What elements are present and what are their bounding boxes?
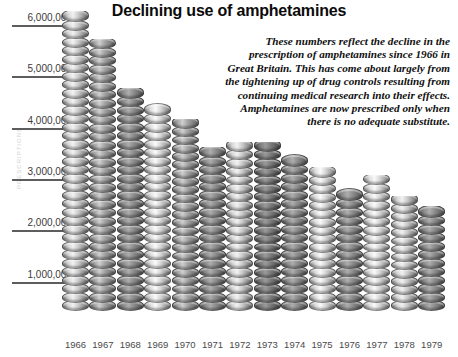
plot-area: PRESCRIPTIONS 6,000,0005,000,0004,000,00… [0, 0, 458, 357]
bar[interactable] [336, 188, 363, 311]
bar-series [0, 0, 458, 334]
bar[interactable] [144, 103, 171, 311]
coin-disc [281, 154, 308, 166]
chart-figure: Declining use of amphetamines These numb… [0, 0, 458, 357]
bar[interactable] [62, 11, 89, 311]
x-axis-tick-label: 1979 [415, 339, 449, 350]
coin-disc [172, 119, 199, 129]
bar[interactable] [117, 88, 144, 311]
bar[interactable] [172, 119, 199, 312]
bar[interactable] [418, 206, 445, 311]
x-axis: 1966196719681969197019711972197319741975… [0, 339, 458, 355]
coin-disc [117, 88, 144, 99]
coin-disc [62, 11, 89, 22]
coin-disc [336, 188, 363, 201]
coin-disc [418, 206, 445, 218]
coin-disc [391, 196, 418, 206]
bar[interactable] [391, 196, 418, 312]
bar[interactable] [281, 154, 308, 311]
bar[interactable] [363, 175, 390, 311]
coin-disc [309, 167, 336, 177]
bar[interactable] [89, 39, 116, 311]
coin-disc [254, 142, 281, 152]
bar[interactable] [309, 167, 336, 311]
bar[interactable] [226, 142, 253, 311]
bar[interactable] [254, 142, 281, 311]
bar[interactable] [199, 147, 226, 311]
coin-disc [199, 147, 226, 158]
coin-disc [144, 103, 171, 115]
